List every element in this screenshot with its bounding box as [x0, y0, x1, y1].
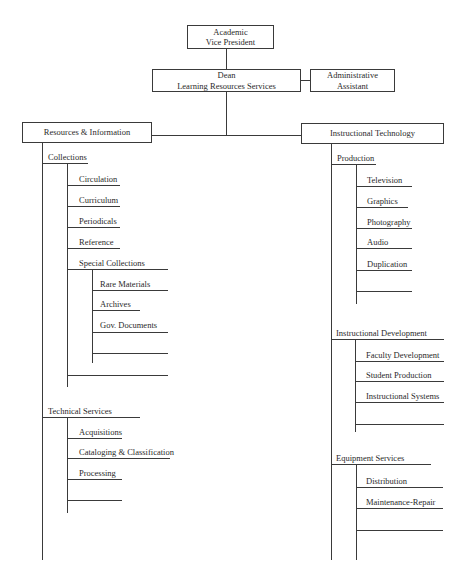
item-processing: Processing	[79, 468, 116, 478]
underline	[67, 458, 170, 459]
underline	[67, 479, 122, 480]
dean-box: Dean Learning Resources Services	[152, 69, 301, 92]
underline	[356, 186, 412, 187]
academic-vp-line1: Academic	[213, 27, 247, 38]
underline	[67, 227, 120, 228]
blank-slot	[67, 500, 122, 501]
blank-slot	[356, 291, 412, 292]
item-distribution: Distribution	[366, 476, 407, 486]
item-student-production: Student Production	[366, 370, 431, 380]
admin-assistant-line2: Assistant	[337, 81, 368, 92]
item-archives: Archives	[100, 299, 131, 309]
underline	[92, 290, 168, 291]
underline	[331, 339, 444, 340]
item-reference: Reference	[79, 237, 113, 247]
item-graphics: Graphics	[367, 196, 398, 206]
underline	[356, 228, 412, 229]
underline	[67, 438, 122, 439]
production-spine	[356, 164, 357, 304]
academic-vp-box: Academic Vice President	[187, 25, 274, 49]
technical-services-spine	[67, 417, 68, 513]
underline	[92, 310, 140, 311]
instructional-technology-box: Instructional Technology	[301, 123, 444, 144]
unit-production: Production	[337, 153, 374, 163]
item-maintenance-repair: Maintenance-Repair	[366, 497, 435, 507]
item-instructional-systems: Instructional Systems	[366, 391, 439, 401]
underline	[331, 464, 431, 465]
underline	[356, 508, 443, 509]
right-division-spine	[331, 144, 332, 560]
item-audio: Audio	[367, 237, 388, 247]
resources-information-title: Resources & Information	[44, 127, 130, 138]
equipment-services-spine	[356, 464, 357, 560]
item-special-collections: Special Collections	[79, 258, 145, 268]
item-television: Television	[367, 175, 402, 185]
dean-assistant-connector	[301, 80, 310, 81]
underline	[42, 163, 88, 164]
unit-technical-services: Technical Services	[48, 406, 112, 416]
resources-information-box: Resources & Information	[22, 122, 152, 143]
unit-instructional-development: Instructional Development	[336, 328, 427, 338]
admin-assistant-box: Administrative Assistant	[310, 69, 395, 92]
item-circulation: Circulation	[79, 174, 117, 184]
item-cataloging: Cataloging & Classification	[79, 447, 174, 457]
blank-slot	[67, 375, 168, 376]
item-photography: Photography	[367, 217, 410, 227]
collections-spine	[67, 163, 68, 387]
underline	[355, 402, 444, 403]
underline	[355, 361, 444, 362]
item-periodicals: Periodicals	[79, 216, 117, 226]
underline	[67, 248, 120, 249]
item-duplication: Duplication	[367, 259, 407, 269]
left-division-spine	[42, 143, 43, 560]
item-curriculum: Curriculum	[79, 195, 118, 205]
admin-assistant-line1: Administrative	[327, 70, 378, 81]
division-connector	[151, 135, 301, 136]
underline	[67, 206, 120, 207]
special-collections-spine	[92, 269, 93, 363]
underline	[67, 269, 168, 270]
item-gov-documents: Gov. Documents	[100, 320, 157, 330]
academic-vp-line2: Vice President	[206, 37, 255, 48]
unit-equipment-services: Equipment Services	[336, 453, 404, 463]
underline	[356, 248, 412, 249]
unit-collections: Collections	[48, 152, 87, 162]
vp-dean-connector	[226, 49, 227, 69]
dean-line2: Learning Resources Services	[177, 81, 276, 92]
main-trunk	[226, 92, 227, 136]
blank-slot	[355, 424, 444, 425]
underline	[355, 381, 444, 382]
underline	[67, 185, 120, 186]
item-acquisitions: Acquisitions	[79, 427, 122, 437]
underline	[356, 487, 443, 488]
underline	[356, 207, 408, 208]
underline	[42, 417, 140, 418]
instructional-technology-title: Instructional Technology	[330, 128, 415, 139]
item-rare-materials: Rare Materials	[100, 279, 150, 289]
instructional-development-spine	[355, 339, 356, 432]
underline	[331, 164, 376, 165]
underline	[356, 270, 412, 271]
blank-slot	[92, 353, 168, 354]
blank-slot	[356, 530, 443, 531]
item-faculty-development: Faculty Development	[366, 350, 439, 360]
underline	[92, 332, 168, 333]
dean-line1: Dean	[218, 70, 236, 81]
